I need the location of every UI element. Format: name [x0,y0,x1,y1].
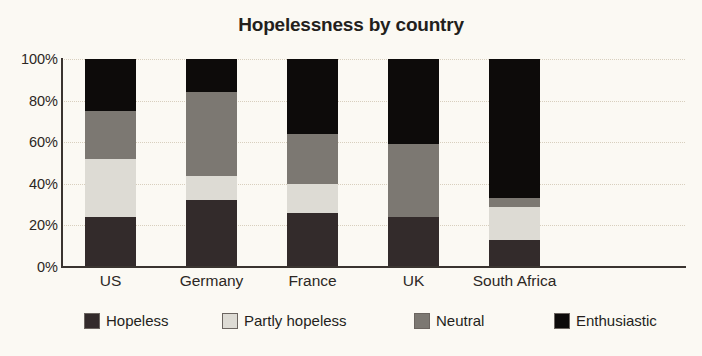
bar-segment-enthusiastic[interactable] [287,59,338,134]
bar-segment-hopeless[interactable] [85,217,136,267]
bar-segment-neutral[interactable] [388,144,439,217]
bar-segment-enthusiastic[interactable] [85,59,136,111]
bar-segment-hopeless[interactable] [388,217,439,267]
legend-item-hopeless[interactable]: Hopeless [84,312,169,329]
bar-segment-neutral[interactable] [186,92,237,175]
chart-legend: HopelessPartly hopelessNeutralEnthusiast… [62,312,682,338]
y-axis-tick-20: 20% [2,217,58,233]
y-axis-tick-100: 100% [2,51,58,67]
bar-segment-partly-hopeless[interactable] [287,184,338,213]
bar-segment-hopeless[interactable] [287,213,338,267]
y-axis-tick-40: 40% [2,176,58,192]
legend-swatch-icon [554,313,570,329]
x-axis-tick-us: US [100,272,122,290]
gridline-20 [62,225,685,226]
bar-germany[interactable] [186,59,237,267]
legend-label: Neutral [436,312,484,329]
legend-label: Hopeless [106,312,169,329]
bar-segment-neutral[interactable] [489,198,540,206]
bar-segment-partly-hopeless[interactable] [186,176,237,201]
bar-segment-enthusiastic[interactable] [489,59,540,198]
bar-segment-partly-hopeless[interactable] [85,159,136,217]
plot-area [62,59,685,267]
x-axis-tick-germany: Germany [180,272,244,290]
bar-segment-enthusiastic[interactable] [388,59,439,144]
bar-france[interactable] [287,59,338,267]
bar-us[interactable] [85,59,136,267]
x-axis-tick-south-africa: South Africa [473,272,557,290]
bar-segment-partly-hopeless[interactable] [489,207,540,240]
legend-item-enthusiastic[interactable]: Enthusiastic [554,312,657,329]
legend-swatch-icon [414,313,430,329]
legend-label: Partly hopeless [244,312,347,329]
plot-background [62,59,685,267]
y-axis-tick-0: 0% [2,259,58,275]
bar-segment-hopeless[interactable] [489,240,540,267]
x-axis-tick-france: France [288,272,336,290]
bar-segment-neutral[interactable] [85,111,136,159]
gridline-60 [62,142,685,143]
chart-page: Hopelessness by country 0%20%40%60%80%10… [0,0,702,356]
gridline-40 [62,184,685,185]
gridline-100 [62,59,685,60]
bar-segment-enthusiastic[interactable] [186,59,237,92]
y-axis-tick-80: 80% [2,93,58,109]
legend-label: Enthusiastic [576,312,657,329]
legend-item-neutral[interactable]: Neutral [414,312,484,329]
legend-item-partly-hopeless[interactable]: Partly hopeless [222,312,347,329]
legend-swatch-icon [222,313,238,329]
gridline-80 [62,101,685,102]
y-axis-tick-labels: 0%20%40%60%80%100% [0,0,58,356]
bar-segment-neutral[interactable] [287,134,338,184]
x-axis-tick-uk: UK [403,272,425,290]
x-axis-line [61,266,686,268]
bar-segment-hopeless[interactable] [186,200,237,267]
bar-south-africa[interactable] [489,59,540,267]
legend-swatch-icon [84,313,100,329]
bar-uk[interactable] [388,59,439,267]
y-axis-line [61,58,63,268]
chart-title: Hopelessness by country [0,14,702,36]
y-axis-tick-60: 60% [2,134,58,150]
